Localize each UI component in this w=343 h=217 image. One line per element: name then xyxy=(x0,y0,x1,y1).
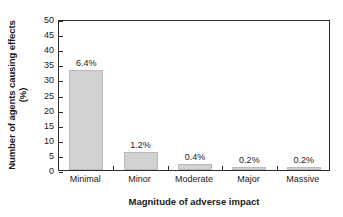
y-axis-tick-label: 30 xyxy=(30,76,54,85)
bar-value-label: 6.4% xyxy=(76,58,97,68)
bar-group: 0.2% xyxy=(277,21,331,170)
x-axis-tick-label: Minor xyxy=(128,174,151,184)
plot-area: 6.4%1.2%0.4%0.2%0.2% xyxy=(58,20,330,171)
y-axis-tick-label: 15 xyxy=(30,121,54,130)
bar-group: 6.4% xyxy=(59,21,113,170)
y-axis-tick-mark xyxy=(59,127,63,128)
bar xyxy=(287,167,321,170)
bar-chart: Number of agents causing effects (%) 504… xyxy=(0,0,343,217)
bar-value-label: 0.4% xyxy=(185,152,206,162)
bar-value-label: 0.2% xyxy=(239,155,260,165)
x-axis-title: Magnitude of adverse impact xyxy=(58,196,330,207)
x-axis-tick-mark xyxy=(277,166,278,170)
bars-layer: 6.4%1.2%0.4%0.2%0.2% xyxy=(59,21,329,170)
y-axis-tick-mark xyxy=(59,97,63,98)
bar xyxy=(232,167,266,170)
y-axis-tick-mark xyxy=(59,157,63,158)
bar-value-label: 0.2% xyxy=(294,155,315,165)
x-axis-tick-label: Major xyxy=(237,174,260,184)
y-axis-tick-labels: 50454035302520151050 xyxy=(30,14,54,172)
y-axis-tick-label: 45 xyxy=(30,31,54,40)
y-axis-tick-mark xyxy=(59,51,63,52)
y-axis-tick-mark xyxy=(59,172,63,173)
y-axis-tick-label: 0 xyxy=(30,167,54,176)
bar-group: 1.2% xyxy=(113,21,167,170)
bar-group: 0.2% xyxy=(222,21,276,170)
y-axis-tick-label: 25 xyxy=(30,91,54,100)
y-axis-tick-label: 35 xyxy=(30,61,54,70)
bar xyxy=(178,164,212,170)
bar-value-label: 1.2% xyxy=(130,140,151,150)
y-axis-tick-mark xyxy=(59,66,63,67)
y-axis-tick-label: 50 xyxy=(30,16,54,25)
y-axis-title-line1: Number of agents causing effects xyxy=(6,20,17,169)
y-axis-tick-mark xyxy=(59,81,63,82)
bar-group: 0.4% xyxy=(168,21,222,170)
y-axis-tick-mark xyxy=(59,112,63,113)
y-axis-tick-label: 40 xyxy=(30,46,54,55)
x-axis-tick-label: Minimal xyxy=(70,174,101,184)
x-axis-tick-label: Massive xyxy=(286,174,319,184)
y-axis-tick-label: 20 xyxy=(30,106,54,115)
x-axis-tick-mark xyxy=(168,166,169,170)
x-axis-tick-mark xyxy=(113,166,114,170)
y-axis-title-line2: (%) xyxy=(17,20,28,169)
x-axis-tick-labels: MinimalMinorModerateMajorMassive xyxy=(58,174,330,188)
x-axis-tick-mark xyxy=(222,166,223,170)
y-axis-tick-mark xyxy=(59,36,63,37)
y-axis-tick-mark xyxy=(59,21,63,22)
y-axis-tick-label: 10 xyxy=(30,136,54,145)
y-axis-title: Number of agents causing effects (%) xyxy=(0,0,34,190)
bar xyxy=(124,152,158,170)
x-axis-tick-label: Moderate xyxy=(175,174,213,184)
y-axis-tick-mark xyxy=(59,142,63,143)
bar xyxy=(69,70,103,170)
y-axis-tick-label: 5 xyxy=(30,151,54,160)
